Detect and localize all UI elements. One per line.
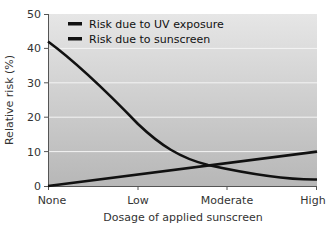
legend-swatch-sunscreen (68, 37, 82, 41)
y-tick-50: 50 (27, 8, 41, 21)
legend-label-sunscreen: Risk due to sunscreen (89, 33, 210, 46)
x-tick-labels: None Low Moderate High (38, 194, 326, 207)
x-tick-moderate: Moderate (201, 194, 254, 207)
legend-label-uv: Risk due to UV exposure (89, 18, 224, 31)
x-tick-high: High (300, 194, 325, 207)
y-axis-title: Relative risk (%) (3, 55, 16, 145)
legend-swatch-uv (68, 22, 82, 26)
x-tick-low: Low (127, 194, 149, 207)
y-tick-0: 0 (34, 180, 41, 193)
y-tick-30: 30 (27, 77, 41, 90)
y-tick-labels: 0 10 20 30 40 50 (27, 8, 41, 193)
x-tick-none: None (38, 194, 67, 207)
y-tick-10: 10 (27, 146, 41, 159)
x-axis-title: Dosage of applied sunscreen (103, 211, 262, 224)
y-tick-40: 40 (27, 42, 41, 55)
y-tick-20: 20 (27, 111, 41, 124)
chart: 0 10 20 30 40 50 None Low Moderate High … (0, 0, 334, 229)
